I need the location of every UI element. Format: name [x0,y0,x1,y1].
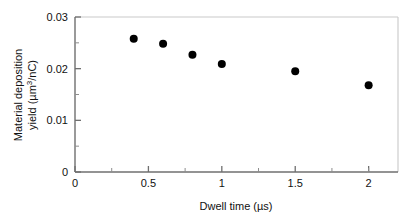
x-tick-label: 0 [72,177,78,189]
figure-container: 00.010.020.03 00.511.52 Dwell time (µs) … [0,0,414,219]
data-point [291,67,299,75]
y-tick-label: 0.03 [47,11,68,23]
scatter-chart: 00.010.020.03 00.511.52 Dwell time (µs) … [0,0,414,219]
data-point [159,40,167,48]
data-point [130,35,138,43]
x-tick-label: 2 [366,177,372,189]
data-point [218,60,226,68]
x-axis-title: Dwell time (µs) [200,200,273,212]
chart-background [0,0,414,219]
x-tick-label: 1 [219,177,225,189]
y-tick-label: 0.01 [47,114,68,126]
data-point [365,81,373,89]
y-axis-title-line2-pre: yield (µm [26,85,38,130]
data-point [188,51,196,59]
x-tick-label: 0.5 [141,177,156,189]
y-axis-title-line2: yield (µm3/nC) [25,60,38,130]
y-axis-title-line2-post: /nC) [26,60,38,81]
x-tick-label: 1.5 [288,177,303,189]
y-axis-title-line1: Material deposition [12,49,24,141]
y-tick-label: 0 [62,166,68,178]
y-tick-label: 0.02 [47,63,68,75]
